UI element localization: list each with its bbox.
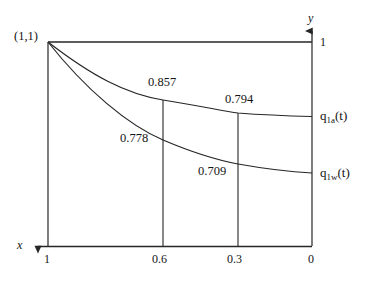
x-axis-tick-06: 0.6 [152,253,167,265]
value-label-lower-at-03: 0.709 [198,165,226,178]
figure-container: (1,1) y 1 x 1 0.6 0.3 0 0.857 0.794 0.77… [0,0,374,288]
x-axis-tick-1: 1 [44,253,50,265]
x-axis-tick-03: 0.3 [227,253,242,265]
corner-coordinate-label: (1,1) [14,30,38,43]
curve-label-q1a-subscript: 1a [327,115,336,125]
curve-label-q1w-subscript: 1w [327,172,338,182]
y-axis-tick-1: 1 [320,36,326,48]
curve-label-q1w: q1w(t) [320,166,350,182]
x-axis-label: x [17,239,22,251]
curve-label-q1a: q1a(t) [320,109,347,125]
plot-canvas [0,0,374,288]
curve-label-q1w-arg: (t) [338,165,350,180]
value-label-upper-at-03: 0.794 [225,93,253,106]
x-axis-tick-0: 0 [308,253,314,265]
curve-q1a [48,42,312,117]
y-axis-label: y [308,12,313,24]
curve-q1w [48,42,312,173]
value-label-lower-at-06: 0.778 [120,132,148,145]
curve-label-q1a-arg: (t) [335,108,347,123]
value-label-upper-at-06: 0.857 [148,76,176,89]
